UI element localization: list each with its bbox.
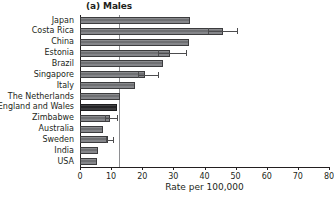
x-axis-tick-label: 20 [137,172,147,181]
bar-row [80,80,329,91]
bar [80,82,135,89]
bar [80,39,189,46]
error-bar-cap [113,137,114,143]
bar-row [80,48,329,59]
y-axis-category-label: Sweden [42,136,74,144]
y-axis-category-label: China [51,38,74,46]
error-bar-cap [158,72,159,78]
x-axis-tick-label: 30 [168,172,178,181]
y-axis-category-label: Estonia [45,49,74,57]
bar [80,71,145,78]
bar-row [80,37,329,48]
error-bar [138,75,157,76]
error-bar-cap [186,50,187,56]
bar [80,126,103,133]
error-bar [208,31,238,32]
bar-row [80,91,329,102]
x-axis-tick [298,167,299,170]
y-axis-category-label: Costa Rica [32,27,74,35]
bar-row [80,124,329,135]
bar [80,50,170,57]
error-bar [105,118,117,119]
y-axis-category-label: Australia [39,125,74,133]
error-bar-cap [138,72,139,78]
y-axis-category-label: England and Wales [0,103,74,111]
bar [80,93,120,100]
x-axis-tick [236,167,237,170]
y-axis-category-label: India [54,147,74,155]
y-axis-category-label: The Netherlands [8,93,74,101]
x-axis-tick [80,167,81,170]
x-axis-tick [142,167,143,170]
bar [80,136,108,143]
x-axis-tick-label: 60 [262,172,272,181]
bar-row [80,26,329,37]
error-bar-cap [237,28,238,34]
bar [80,147,98,154]
error-bar-cap [105,115,106,121]
x-axis-tick-label: 0 [77,172,82,181]
y-axis-category-label: Singapore [34,71,74,79]
y-axis-category-label: Zimbabwe [32,114,74,122]
x-axis-tick-label: 50 [231,172,241,181]
bar [80,60,163,67]
x-axis-title: Rate per 100,000 [80,182,329,192]
bar [80,28,223,35]
x-axis-tick [267,167,268,170]
bar [80,104,117,111]
error-bar-cap [117,115,118,121]
x-axis-tick-label: 10 [106,172,116,181]
y-axis-category-label: Italy [57,82,74,90]
x-axis-tick [329,167,330,170]
bar-row [80,69,329,80]
x-axis-tick-label: 80 [324,172,334,181]
bar [80,158,97,165]
x-axis-tick [205,167,206,170]
plot-area: 01020304050607080 [80,15,329,167]
error-bar [158,53,186,54]
bar-row [80,113,329,124]
y-axis-category-labels: JapanCosta RicaChinaEstoniaBrazilSingapo… [0,15,77,167]
bar-row [80,58,329,69]
bar [80,17,190,24]
error-bar-cap [208,28,209,34]
bar-row [80,134,329,145]
error-bar-cap [106,137,107,143]
bar-row [80,145,329,156]
x-axis-tick-label: 40 [199,172,209,181]
error-bar-cap [158,50,159,56]
x-axis-tick [173,167,174,170]
bar-row [80,102,329,113]
bar-row [80,15,329,26]
x-axis-tick [111,167,112,170]
y-axis-category-label: Japan [52,17,74,25]
x-axis-tick-label: 70 [293,172,303,181]
chart-title: (a) Males [86,1,132,11]
y-axis-category-label: USA [57,158,74,166]
y-axis-category-label: Brazil [52,60,74,68]
bar-row [80,156,329,167]
